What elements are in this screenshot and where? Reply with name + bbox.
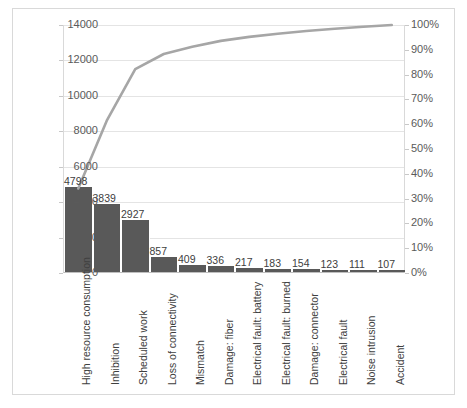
plot-area bbox=[63, 25, 405, 273]
x-axis-category-label: Noise intrusion bbox=[366, 316, 377, 385]
y-axis-right-tick-label: 90% bbox=[411, 44, 461, 55]
y-axis-right-tick-label: 100% bbox=[411, 19, 461, 30]
y-axis-right-tick-label: 20% bbox=[411, 217, 461, 228]
y-axis-left-tick-mark bbox=[59, 202, 63, 203]
x-axis-category-label: Inhibition bbox=[110, 343, 121, 385]
y-axis-left-tick-mark bbox=[59, 167, 63, 168]
x-axis-category-label: Scheduled work bbox=[138, 310, 149, 385]
y-axis-right-tick-label: 40% bbox=[411, 168, 461, 179]
y-axis-right-tick-mark bbox=[405, 124, 409, 125]
bar-value-label: 154 bbox=[292, 258, 310, 269]
bar-value-label: 857 bbox=[150, 246, 168, 257]
y-axis-right-tick-mark bbox=[405, 199, 409, 200]
y-axis-right-tick-mark bbox=[405, 273, 409, 274]
y-axis-right-tick-mark bbox=[405, 50, 409, 51]
y-axis-left-tick-label: 4000 bbox=[38, 196, 98, 207]
x-axis-category-label: Loss of connectivity bbox=[167, 293, 178, 385]
x-axis-category-label: High resource consumption bbox=[81, 257, 92, 385]
y-axis-right-tick-label: 0% bbox=[411, 267, 461, 278]
y-axis-right-tick-mark bbox=[405, 174, 409, 175]
bar-value-label: 4798 bbox=[64, 176, 87, 187]
y-axis-right-tick-label: 30% bbox=[411, 193, 461, 204]
y-axis-right-tick-mark bbox=[405, 99, 409, 100]
x-axis-category-label: Electrical fault: battery bbox=[252, 282, 263, 385]
chart-frame: 479838392927857409336217183154123111107 … bbox=[12, 8, 455, 395]
x-axis-category-label: Electrical fault: burned bbox=[281, 281, 292, 385]
bar-value-label: 123 bbox=[321, 259, 339, 270]
y-axis-right-tick-mark bbox=[405, 149, 409, 150]
bar-value-label: 217 bbox=[235, 257, 253, 268]
y-axis-right-tick-mark bbox=[405, 223, 409, 224]
y-axis-left-tick-label: 8000 bbox=[38, 125, 98, 136]
y-axis-left-tick-mark bbox=[59, 131, 63, 132]
y-axis-right-tick-label: 10% bbox=[411, 242, 461, 253]
y-axis-right-tick-label: 60% bbox=[411, 118, 461, 129]
y-axis-left-tick-label: 12000 bbox=[38, 54, 98, 65]
y-axis-left-tick-label: 2000 bbox=[38, 232, 98, 243]
x-axis-category-label: Accident bbox=[395, 345, 406, 385]
y-axis-left-tick-mark bbox=[59, 96, 63, 97]
y-axis-left-tick-mark bbox=[59, 60, 63, 61]
y-axis-left-tick-mark bbox=[59, 273, 63, 274]
y-axis-left-tick-mark bbox=[59, 25, 63, 26]
y-axis-right-tick-mark bbox=[405, 248, 409, 249]
bar-value-label: 336 bbox=[207, 255, 225, 266]
bar-value-label: 111 bbox=[349, 259, 365, 270]
bar-value-label: 183 bbox=[264, 258, 282, 269]
y-axis-left-tick-mark bbox=[59, 238, 63, 239]
x-axis-category-label: Electrical fault bbox=[338, 320, 349, 385]
y-axis-right-tick-mark bbox=[405, 75, 409, 76]
bar-value-label: 2927 bbox=[121, 209, 144, 220]
x-axis-category-label: Damage: connector bbox=[309, 293, 320, 385]
y-axis-left-tick-label: 14000 bbox=[38, 19, 98, 30]
cumulative-line-path bbox=[78, 25, 392, 188]
y-axis-left-tick-label: 10000 bbox=[38, 90, 98, 101]
cumulative-line-series bbox=[64, 25, 406, 273]
y-axis-left-tick-label: 6000 bbox=[38, 161, 98, 172]
bar-value-label: 409 bbox=[178, 254, 196, 265]
x-axis-category-label: Damage: fiber bbox=[224, 319, 235, 385]
y-axis-right-tick-label: 80% bbox=[411, 69, 461, 80]
y-axis-right-tick-label: 50% bbox=[411, 143, 461, 154]
bar-value-label: 107 bbox=[378, 259, 396, 270]
x-axis-category-label: Mismatch bbox=[195, 340, 206, 385]
y-axis-right-tick-label: 70% bbox=[411, 93, 461, 104]
y-axis-right-tick-mark bbox=[405, 25, 409, 26]
